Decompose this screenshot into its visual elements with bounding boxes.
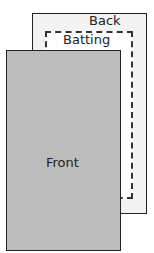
back-label: Back	[89, 14, 121, 27]
batting-label: Batting	[63, 33, 110, 46]
front-layer	[6, 50, 121, 251]
front-label: Front	[46, 156, 79, 169]
